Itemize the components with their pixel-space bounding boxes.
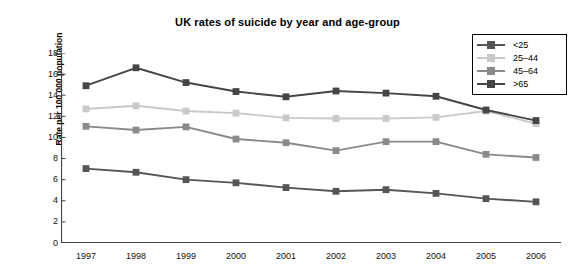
y-tick-label: 18 (36, 49, 58, 58)
x-tick-label: 2006 (506, 251, 566, 261)
legend-marker-icon (477, 52, 505, 63)
chart-container: UK rates of suicide by year and age-grou… (0, 0, 575, 272)
legend-marker-icon (477, 39, 505, 50)
y-tick-label: 12 (36, 112, 58, 121)
legend-item[interactable]: <25 (477, 38, 562, 51)
legend-item[interactable]: 45–64 (477, 64, 562, 77)
series-25 (83, 165, 540, 205)
series-65 (83, 64, 540, 124)
y-tick-label: 14 (36, 91, 58, 100)
y-tick-label: 4 (36, 196, 58, 205)
y-tick-label: 0 (36, 239, 58, 248)
x-axis-tick-labels: 1997199819992000200120022003200420052006 (61, 243, 561, 265)
legend-marker-icon (477, 65, 505, 76)
y-axis-tick-labels: 181614121086420 (36, 53, 58, 243)
y-tick-label: 8 (36, 154, 58, 163)
legend-marker-icon (477, 78, 505, 89)
legend-label: <25 (505, 40, 528, 50)
legend-label: >65 (505, 79, 528, 89)
y-tick-label: 2 (36, 217, 58, 226)
y-tick-label: 10 (36, 133, 58, 142)
y-tick-label: 6 (36, 175, 58, 184)
chart-title: UK rates of suicide by year and age-grou… (0, 16, 575, 28)
y-tick-label: 16 (36, 70, 58, 79)
legend-item[interactable]: 25–44 (477, 51, 562, 64)
legend-label: 45–64 (505, 66, 538, 76)
series-45-64 (83, 123, 540, 161)
legend-label: 25–44 (505, 53, 538, 63)
legend-item[interactable]: >65 (477, 77, 562, 90)
legend: <2525–4445–64>65 (472, 34, 567, 95)
